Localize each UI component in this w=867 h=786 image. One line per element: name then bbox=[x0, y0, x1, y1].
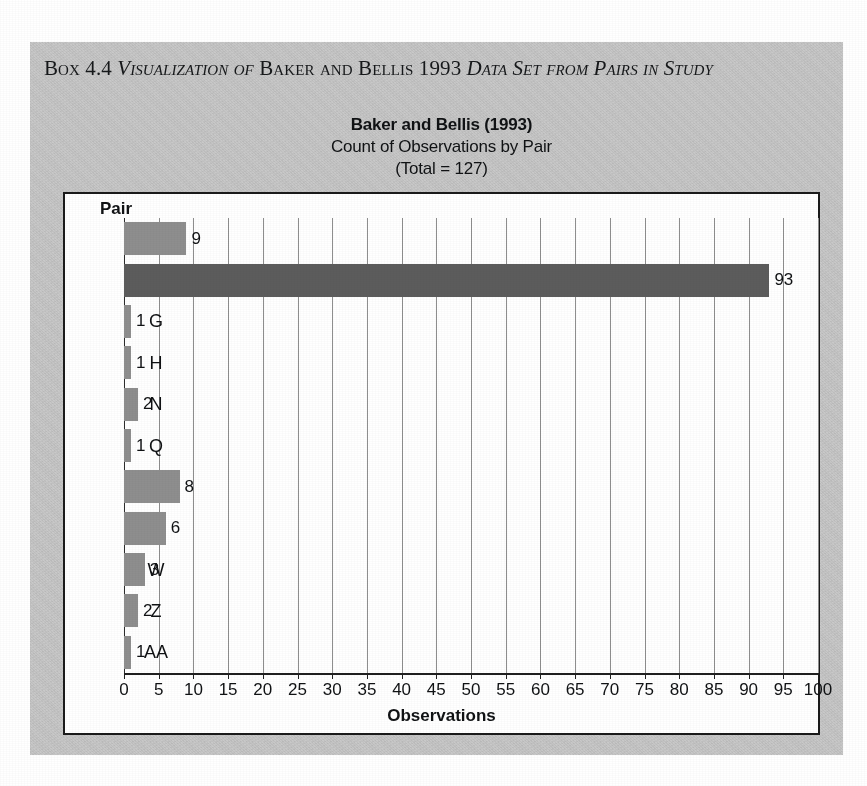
tickmark-95 bbox=[783, 673, 784, 679]
tickmark-45 bbox=[436, 673, 437, 679]
x-tick-label-90: 90 bbox=[739, 680, 758, 700]
bar-row: H1 bbox=[124, 346, 818, 379]
value-label-Z: 2 bbox=[143, 602, 152, 619]
value-label-AA: 1 bbox=[136, 643, 145, 660]
x-tick-label-80: 80 bbox=[670, 680, 689, 700]
tickmark-90 bbox=[749, 673, 750, 679]
bar-row: W3 bbox=[124, 553, 818, 586]
x-tick-label-65: 65 bbox=[566, 680, 585, 700]
tickmark-75 bbox=[645, 673, 646, 679]
x-tick-label-50: 50 bbox=[462, 680, 481, 700]
value-label-B: 93 bbox=[774, 271, 793, 288]
bar-R[interactable] bbox=[124, 470, 180, 503]
value-label-S: 6 bbox=[171, 519, 180, 536]
category-label-N: N bbox=[132, 395, 180, 413]
x-tick-label-70: 70 bbox=[600, 680, 619, 700]
tickmark-100 bbox=[818, 673, 819, 679]
x-tick-label-15: 15 bbox=[219, 680, 238, 700]
x-tick-label-0: 0 bbox=[119, 680, 128, 700]
x-tick-label-85: 85 bbox=[704, 680, 723, 700]
bar-Z[interactable] bbox=[124, 594, 138, 627]
bar-A[interactable] bbox=[124, 222, 186, 255]
bar-S[interactable] bbox=[124, 512, 166, 545]
x-tick-label-100: 100 bbox=[804, 680, 832, 700]
bar-row: A9 bbox=[124, 222, 818, 255]
value-label-Q: 1 bbox=[136, 437, 145, 454]
x-tick-label-10: 10 bbox=[184, 680, 203, 700]
chart-title-block: Baker and Bellis (1993) Count of Observa… bbox=[63, 114, 820, 180]
chart-plot-frame: Pair A9B93G1H1N2Q1R8S6W3Z2AA1 0510152025… bbox=[63, 192, 820, 735]
tickmark-25 bbox=[298, 673, 299, 679]
bar-row: Z2 bbox=[124, 594, 818, 627]
bar-N[interactable] bbox=[124, 388, 138, 421]
box-heading-year: 1993 bbox=[414, 56, 467, 80]
value-label-N: 2 bbox=[143, 395, 152, 412]
value-label-W: 3 bbox=[150, 561, 159, 578]
bar-row: N2 bbox=[124, 388, 818, 421]
value-label-R: 8 bbox=[185, 478, 194, 495]
box-heading-part-visualization: Visualization of bbox=[117, 56, 254, 80]
tickmark-35 bbox=[367, 673, 368, 679]
tickmark-15 bbox=[228, 673, 229, 679]
x-tick-label-45: 45 bbox=[427, 680, 446, 700]
chart-subtitle-total: (Total = 127) bbox=[63, 158, 820, 180]
bar-Q[interactable] bbox=[124, 429, 131, 462]
x-tick-label-20: 20 bbox=[253, 680, 272, 700]
chart-subtitle: Count of Observations by Pair bbox=[63, 136, 820, 158]
tickmark-40 bbox=[402, 673, 403, 679]
value-label-A: 9 bbox=[191, 230, 200, 247]
bar-row: G1 bbox=[124, 305, 818, 338]
x-tick-label-35: 35 bbox=[357, 680, 376, 700]
tickmark-65 bbox=[575, 673, 576, 679]
x-tick-label-5: 5 bbox=[154, 680, 163, 700]
x-axis-title: Observations bbox=[65, 706, 818, 726]
x-tick-label-95: 95 bbox=[774, 680, 793, 700]
tickmark-20 bbox=[263, 673, 264, 679]
x-tick-label-75: 75 bbox=[635, 680, 654, 700]
bar-row: AA1 bbox=[124, 636, 818, 669]
box-heading: Box 4.4 Visualization of Baker and Belli… bbox=[44, 56, 833, 81]
tickmark-50 bbox=[471, 673, 472, 679]
chart-title: Baker and Bellis (1993) bbox=[63, 114, 820, 136]
tickmark-5 bbox=[159, 673, 160, 679]
bar-H[interactable] bbox=[124, 346, 131, 379]
box-heading-part-dataset: Data Set from Pairs in Study bbox=[467, 56, 713, 80]
plot-inner: Pair A9B93G1H1N2Q1R8S6W3Z2AA1 0510152025… bbox=[65, 194, 818, 733]
x-tick-label-30: 30 bbox=[323, 680, 342, 700]
bar-row: B93 bbox=[124, 264, 818, 297]
x-tick-label-55: 55 bbox=[496, 680, 515, 700]
tickmark-85 bbox=[714, 673, 715, 679]
bar-row: R8 bbox=[124, 470, 818, 503]
tickmark-80 bbox=[679, 673, 680, 679]
tickmark-30 bbox=[332, 673, 333, 679]
box-heading-number: 4.4 bbox=[80, 56, 117, 80]
value-label-H: 1 bbox=[136, 354, 145, 371]
bar-G[interactable] bbox=[124, 305, 131, 338]
tickmark-10 bbox=[193, 673, 194, 679]
tickmark-70 bbox=[610, 673, 611, 679]
bar-B[interactable] bbox=[124, 264, 769, 297]
x-tick-label-40: 40 bbox=[392, 680, 411, 700]
x-tick-label-60: 60 bbox=[531, 680, 550, 700]
gridline-100 bbox=[818, 218, 819, 673]
bar-W[interactable] bbox=[124, 553, 145, 586]
value-label-G: 1 bbox=[136, 312, 145, 329]
box-panel: Box 4.4 Visualization of Baker and Belli… bbox=[30, 42, 843, 755]
bar-row: Q1 bbox=[124, 429, 818, 462]
category-label-Z: Z bbox=[132, 602, 180, 620]
bar-row: S6 bbox=[124, 512, 818, 545]
x-tick-label-25: 25 bbox=[288, 680, 307, 700]
box-heading-label: Box bbox=[44, 56, 80, 80]
tickmark-0 bbox=[124, 673, 125, 679]
tickmark-55 bbox=[506, 673, 507, 679]
box-heading-part-authors: Baker and Bellis bbox=[259, 56, 413, 80]
tickmark-60 bbox=[540, 673, 541, 679]
y-axis-title: Pair bbox=[100, 199, 132, 219]
bar-AA[interactable] bbox=[124, 636, 131, 669]
